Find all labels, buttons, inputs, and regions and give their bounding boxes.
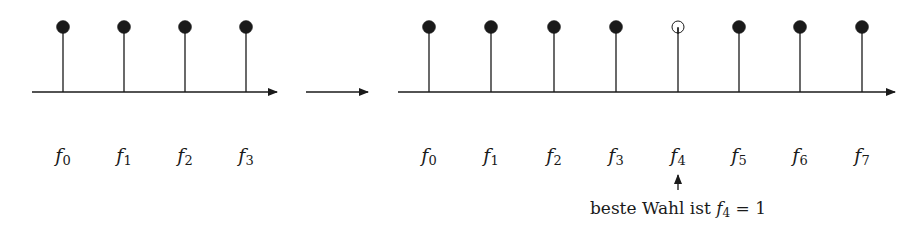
left-sample-f3 [240,21,253,93]
label-index: 2 [553,153,561,168]
label-index: 3 [245,153,253,168]
right-label-f5: f5 [731,144,746,168]
right-label-f4: f4 [670,144,685,168]
right-label-f0: f0 [421,144,436,168]
label-var: f [483,144,490,166]
right-label-f2: f2 [546,144,561,168]
right-sample-f5 [733,21,746,93]
label-var: f [792,144,799,166]
right-stems [423,21,869,93]
annotation-prefix: beste Wahl ist [590,198,711,218]
label-var: f [177,144,184,166]
label-index: 3 [615,153,623,168]
left-label-f0: f0 [55,144,70,168]
label-index: 5 [738,153,746,168]
label-var: f [546,144,553,166]
right-sample-f1 [485,21,498,93]
annotation-suffix: = 1 [736,198,766,218]
label-index: 2 [184,153,192,168]
right-label-f1: f1 [483,144,498,168]
left-sample-f0 [57,21,70,93]
label-index: 1 [123,153,131,168]
label-index: 4 [677,153,685,168]
annotation-index: 4 [723,206,731,220]
left-sample-f1 [118,21,131,93]
label-index: 7 [861,153,869,168]
label-var: f [55,144,62,166]
label-var: f [670,144,677,166]
label-var: f [116,144,123,166]
right-sample-f3 [610,21,623,93]
right-sample-f0 [423,21,436,93]
left-sample-f2 [179,21,192,93]
diagram-canvas [0,0,922,233]
right-label-f7: f7 [854,144,869,168]
right-sample-f6 [794,21,807,93]
right-sample-f2 [548,21,561,93]
label-index: 6 [799,153,807,168]
right-label-f3: f3 [608,144,623,168]
label-index: 0 [428,153,436,168]
label-var: f [854,144,861,166]
label-var: f [238,144,245,166]
left-label-f1: f1 [116,144,131,168]
best-choice-annotation: beste Wahl ist f4 = 1 [590,198,766,220]
left-label-f2: f2 [177,144,192,168]
right-sample-f4 [672,21,684,92]
label-index: 1 [490,153,498,168]
right-label-f6: f6 [792,144,807,168]
label-index: 0 [62,153,70,168]
label-var: f [608,144,615,166]
right-sample-f7 [856,21,869,93]
label-var: f [731,144,738,166]
label-var: f [421,144,428,166]
left-stems [57,21,253,93]
left-label-f3: f3 [238,144,253,168]
